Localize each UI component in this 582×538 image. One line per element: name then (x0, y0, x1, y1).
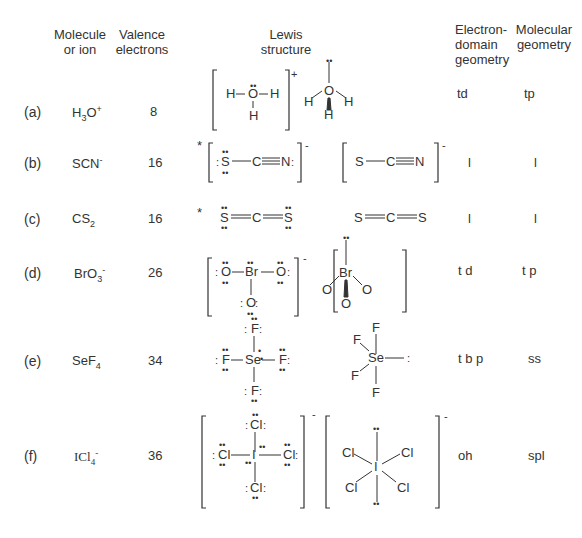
svg-text:••: •• (279, 365, 285, 375)
svg-text::: : (240, 297, 243, 309)
svg-text:-: - (305, 139, 309, 151)
lewis-sef4-3d: F F Se : F F (351, 320, 410, 400)
svg-text:N: N (281, 154, 290, 169)
svg-text:S: S (354, 210, 363, 225)
svg-text::: : (244, 323, 247, 335)
svg-text::: : (407, 352, 410, 364)
lewis-scn-line: S C N - (343, 139, 446, 182)
svg-text:Se: Se (368, 350, 384, 365)
svg-text::: : (291, 156, 294, 168)
svg-text::: : (295, 449, 298, 461)
svg-text:Cl: Cl (345, 480, 357, 495)
lewis-cs2-line: S C S (354, 210, 427, 225)
svg-text:H: H (324, 107, 333, 122)
svg-text::: : (245, 482, 248, 494)
svg-text::: : (245, 419, 248, 431)
svg-text:H: H (304, 94, 313, 109)
lewis-sef4-dots: •• : F : •• : F •• Se • • •• F : •• : F … (215, 314, 290, 406)
lewis-h3o-3d: •• O H H H (304, 56, 353, 122)
svg-text:F: F (372, 320, 380, 335)
svg-text:Br: Br (339, 265, 353, 280)
lewis-bro3-3d: •• Br O O O (322, 233, 406, 312)
svg-text::: : (216, 156, 219, 168)
svg-text::: : (244, 385, 247, 397)
svg-text:••: •• (221, 223, 227, 233)
svg-text:Cl: Cl (250, 417, 262, 432)
svg-text:C: C (386, 154, 395, 169)
svg-text::: : (255, 297, 258, 309)
svg-text::: : (259, 385, 262, 397)
lewis-bro3-dots: : O •• •• Br •• O •• •• : : O : •• - (208, 252, 307, 319)
svg-text:••: •• (222, 147, 228, 157)
svg-text:C: C (252, 154, 261, 169)
svg-text:•: • (260, 354, 263, 364)
svg-text:F: F (372, 385, 380, 400)
lewis-structures: + H O •• H H •• O H H H * : S •• •• C N … (0, 0, 582, 538)
svg-text:••: •• (219, 460, 225, 470)
svg-text:Cl: Cl (342, 445, 354, 460)
svg-text:Cl: Cl (397, 480, 409, 495)
svg-text:N: N (415, 154, 424, 169)
svg-text:-: - (444, 410, 448, 422)
svg-text:+: + (291, 68, 297, 80)
svg-text:••: •• (221, 203, 227, 213)
svg-text:••: •• (373, 499, 379, 509)
svg-text:••: •• (245, 458, 251, 468)
svg-text:••: •• (250, 81, 256, 91)
svg-text:C: C (252, 210, 261, 225)
svg-text:••: •• (222, 168, 228, 178)
svg-text:*: * (197, 138, 202, 153)
svg-text:••: •• (285, 203, 291, 213)
svg-text:H: H (344, 94, 353, 109)
svg-text:Cl: Cl (401, 445, 413, 460)
svg-text:F: F (351, 368, 359, 383)
svg-text:C: C (386, 210, 395, 225)
svg-text:O: O (324, 83, 334, 98)
svg-text::: : (259, 323, 262, 335)
svg-text:••: •• (277, 258, 283, 268)
svg-text::: : (215, 354, 218, 366)
svg-text:*: * (197, 205, 202, 220)
svg-text:••: •• (222, 365, 228, 375)
svg-text::: : (263, 482, 266, 494)
svg-text::: : (287, 266, 290, 278)
svg-text:-: - (312, 408, 316, 420)
svg-text:••: •• (285, 223, 291, 233)
svg-text:••: •• (252, 493, 258, 503)
svg-text:H: H (270, 86, 279, 101)
svg-text:S: S (418, 210, 427, 225)
lewis-scn-dots: : S •• •• C N : - (209, 139, 309, 182)
svg-text:-: - (442, 139, 446, 151)
svg-text:F: F (353, 332, 361, 347)
svg-text:H: H (249, 108, 258, 123)
svg-text:H: H (226, 86, 235, 101)
svg-text:F: F (251, 321, 259, 336)
svg-text:••: •• (251, 396, 257, 406)
lewis-cs2-dots: S •• •• C S •• •• (220, 203, 293, 233)
svg-text:-: - (303, 252, 307, 264)
svg-text:O: O (341, 296, 351, 311)
svg-text:••: •• (373, 424, 379, 434)
svg-text:••: •• (222, 258, 228, 268)
svg-text:••: •• (284, 460, 290, 470)
svg-text:••: •• (247, 258, 253, 268)
lewis-icl4-dots: •• : Cl : •• : Cl •• I •• •• •• Cl : •• … (202, 408, 316, 508)
svg-text:I: I (252, 447, 256, 462)
svg-text:S: S (355, 154, 364, 169)
svg-text:••: •• (259, 442, 265, 452)
svg-text::: : (215, 266, 218, 278)
svg-text:••: •• (277, 278, 283, 288)
svg-text:O: O (362, 282, 372, 297)
svg-text:O: O (322, 282, 332, 297)
svg-text::: : (212, 449, 215, 461)
svg-text:I: I (374, 459, 378, 474)
lewis-h3o-bracketed: + H O •• H H (213, 68, 297, 130)
svg-text::: : (263, 419, 266, 431)
lewis-icl4-3d: •• Cl Cl I Cl Cl •• - (326, 410, 448, 509)
svg-text::: : (287, 354, 290, 366)
svg-text:••: •• (222, 278, 228, 288)
